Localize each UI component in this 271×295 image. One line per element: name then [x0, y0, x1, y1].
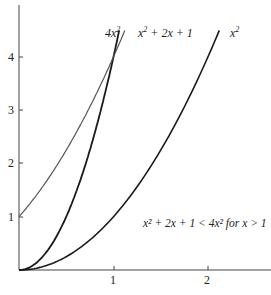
- curve-x-2-2x-1: [19, 30, 125, 216]
- y-tick-label: 3: [8, 103, 14, 117]
- curves: [19, 30, 219, 270]
- x-tick-label: 2: [204, 273, 210, 287]
- label-x2-2x-1: x2 + 2x + 1: [137, 25, 193, 40]
- curve-x-2: [19, 30, 219, 270]
- y-tick-label: 2: [8, 156, 14, 170]
- curve-4x-2: [19, 30, 119, 270]
- y-tick-label: 1: [8, 210, 14, 224]
- chart-figure: 1 2 3 4 1 2 4x2 x2 + 2x + 1 x2 x² + 2x +…: [0, 0, 271, 295]
- y-ticks: 1 2 3 4: [8, 50, 23, 224]
- y-tick-label: 4: [8, 50, 14, 64]
- x-ticks: 1 2: [110, 266, 210, 287]
- annotation: x² + 2x + 1 < 4x² for x > 1: [142, 217, 267, 230]
- label-x2: x2: [229, 25, 239, 40]
- chart-canvas: 1 2 3 4 1 2 4x2 x2 + 2x + 1 x2 x² + 2x +…: [0, 0, 271, 295]
- x-tick-label: 1: [110, 273, 116, 287]
